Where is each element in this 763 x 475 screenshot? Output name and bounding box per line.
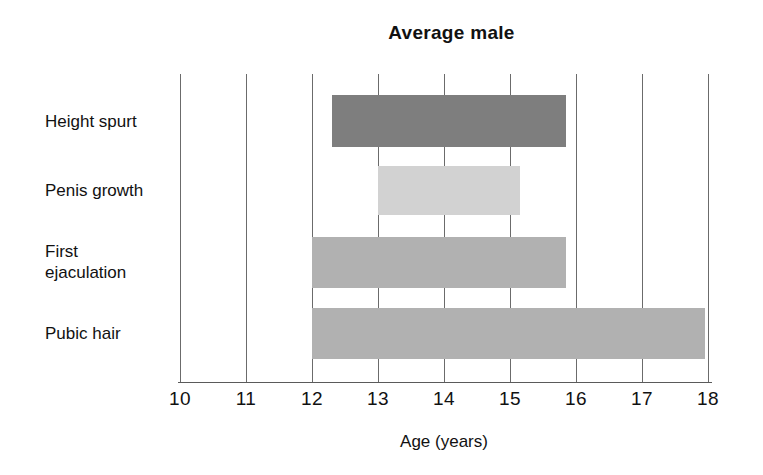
- category-label-first-ejaculation: First ejaculation: [45, 241, 126, 283]
- bar-pubic-hair: [312, 308, 705, 359]
- gridline-10: [180, 74, 181, 382]
- x-tick-15: 15: [490, 388, 530, 410]
- gridline-11: [246, 74, 247, 382]
- x-axis-line: [178, 382, 712, 383]
- x-tick-10: 10: [160, 388, 200, 410]
- x-tick-16: 16: [556, 388, 596, 410]
- plot-area: [180, 74, 708, 382]
- x-tick-18: 18: [688, 388, 728, 410]
- x-tick-11: 11: [226, 388, 266, 410]
- x-tick-13: 13: [358, 388, 398, 410]
- chart-figure: Average male 10 11 12 13 14 15 16 17 18 …: [0, 0, 763, 475]
- gridline-18: [708, 74, 709, 382]
- x-tick-14: 14: [424, 388, 464, 410]
- category-label-penis-growth: Penis growth: [45, 180, 143, 201]
- bar-height-spurt: [332, 95, 566, 147]
- category-label-height-spurt: Height spurt: [45, 111, 137, 132]
- bar-penis-growth: [378, 166, 520, 215]
- bar-first-ejaculation: [312, 237, 566, 288]
- x-axis-title: Age (years): [180, 432, 708, 452]
- category-label-pubic-hair: Pubic hair: [45, 323, 121, 344]
- x-tick-17: 17: [622, 388, 662, 410]
- x-tick-12: 12: [292, 388, 332, 410]
- chart-title: Average male: [70, 22, 763, 44]
